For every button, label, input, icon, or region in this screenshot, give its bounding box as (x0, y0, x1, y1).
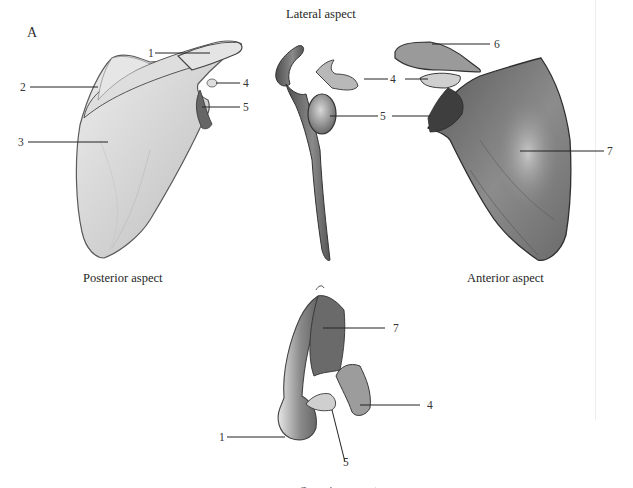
anterior-subscapular-fossa (494, 98, 562, 222)
label-superior-1: 1 (219, 431, 225, 443)
label-superior-5: 5 (343, 456, 349, 468)
label-posterior-3: 3 (18, 136, 24, 148)
superior-coracoid (336, 364, 370, 415)
label-lateral-4: 4 (390, 73, 396, 85)
posterior-coracoid-tip (207, 79, 217, 87)
anterior-coracoid (420, 73, 460, 88)
label-posterior-1: 1 (148, 47, 154, 59)
label-posterior-4: 4 (243, 77, 249, 89)
label-anterior-6: 6 (494, 38, 500, 50)
label-lateral-5: 5 (380, 110, 386, 122)
lateral-scapula (276, 46, 358, 261)
lateral-coracoid (316, 60, 358, 90)
anterior-acromion (395, 42, 481, 72)
label-posterior-2: 2 (20, 81, 26, 93)
posterior-blade (76, 55, 222, 258)
label-superior-4: 4 (427, 399, 433, 411)
superior-tip (316, 286, 324, 290)
superior-supraspinous-fossa (310, 296, 345, 376)
lateral-acromion (276, 46, 304, 86)
label-anterior-7: 7 (607, 145, 613, 157)
scapula-illustration (0, 0, 633, 488)
superior-scapula (278, 286, 370, 440)
posterior-scapula (76, 41, 242, 258)
label-posterior-5: 5 (243, 101, 249, 113)
leader-superior-5 (332, 410, 345, 462)
label-superior-7: 7 (393, 322, 399, 334)
lateral-glenoid-cavity (308, 94, 336, 134)
